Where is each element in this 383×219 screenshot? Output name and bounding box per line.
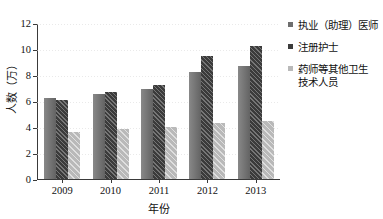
- y-axis-tick: [33, 50, 37, 51]
- legend-item[interactable]: 药师等其他卫生 技术人员: [288, 63, 383, 89]
- bar[interactable]: [117, 129, 129, 179]
- bar[interactable]: [189, 72, 201, 179]
- bar-group: 2009: [38, 24, 86, 179]
- legend-label: 执业（助理）医师: [298, 19, 378, 32]
- y-axis-tick: [33, 102, 37, 103]
- legend-swatch-icon: [288, 66, 293, 71]
- bar-group: 2013: [232, 24, 280, 179]
- x-axis-tick-label: 2009: [52, 185, 73, 196]
- y-axis-tick-label: 0: [26, 175, 31, 186]
- legend-swatch-icon: [288, 22, 293, 27]
- legend-item[interactable]: 执业（助理）医师: [288, 19, 383, 32]
- x-axis-tick-label: 2012: [197, 185, 218, 196]
- x-axis-tick-label: 2013: [245, 185, 266, 196]
- bar[interactable]: [44, 98, 56, 179]
- x-axis-tick: [207, 179, 208, 183]
- legend-item[interactable]: 注册护士: [288, 41, 383, 54]
- y-axis-tick: [33, 76, 37, 77]
- legend-swatch-icon: [288, 44, 293, 49]
- plot-area: 024681012 20092010201120122013 年份: [37, 24, 280, 180]
- y-axis-tick: [33, 180, 37, 181]
- bar[interactable]: [165, 127, 177, 179]
- x-axis-title: 年份: [37, 200, 280, 216]
- y-axis-tick-label: 2: [26, 149, 31, 160]
- bar-groups: 20092010201120122013: [38, 24, 280, 179]
- x-axis-tick: [62, 179, 63, 183]
- legend-label: 注册护士: [298, 41, 338, 54]
- bar-group: 2012: [183, 24, 231, 179]
- bar[interactable]: [250, 46, 262, 179]
- bar-group: 2011: [135, 24, 183, 179]
- y-axis-tick: [33, 154, 37, 155]
- bar-group: 2010: [86, 24, 134, 179]
- bar[interactable]: [213, 123, 225, 179]
- legend-label: 药师等其他卫生 技术人员: [298, 63, 368, 89]
- bar[interactable]: [141, 89, 153, 179]
- y-axis-title: 人数（万）: [3, 41, 19, 131]
- bar[interactable]: [68, 132, 80, 179]
- x-axis-tick-label: 2011: [149, 185, 170, 196]
- legend: 执业（助理）医师注册护士药师等其他卫生 技术人员: [288, 19, 383, 99]
- x-axis-tick: [111, 179, 112, 183]
- bar[interactable]: [238, 66, 250, 179]
- y-axis-tick-label: 12: [21, 19, 32, 30]
- bar[interactable]: [201, 56, 213, 180]
- x-axis-tick: [256, 179, 257, 183]
- bar[interactable]: [153, 85, 165, 179]
- y-axis-tick: [33, 128, 37, 129]
- bar-chart: 人数（万） 024681012 20092010201120122013 年份 …: [0, 0, 383, 219]
- y-axis-tick-label: 10: [21, 45, 32, 56]
- y-axis-tick-label: 4: [26, 123, 31, 134]
- y-axis-tick-label: 6: [26, 97, 31, 108]
- y-axis-tick: [33, 24, 37, 25]
- x-axis-tick-label: 2010: [100, 185, 121, 196]
- x-axis-tick: [159, 179, 160, 183]
- bar[interactable]: [93, 94, 105, 179]
- bar[interactable]: [262, 121, 274, 179]
- bar[interactable]: [105, 92, 117, 179]
- bar[interactable]: [56, 100, 68, 179]
- y-axis-tick-label: 8: [26, 71, 31, 82]
